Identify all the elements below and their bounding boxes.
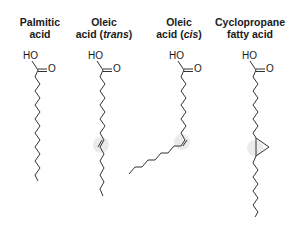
oleic-acid-trans-structure — [97, 61, 112, 196]
cyclopropane-highlight — [247, 140, 263, 156]
structures-canvas — [0, 0, 297, 228]
double-bond-highlight-cis — [174, 134, 190, 150]
oleic-acid-cis-structure — [129, 61, 193, 174]
cyclopropane-fatty-acid-structure — [250, 61, 269, 217]
palmitic-acid-structure — [32, 61, 47, 181]
